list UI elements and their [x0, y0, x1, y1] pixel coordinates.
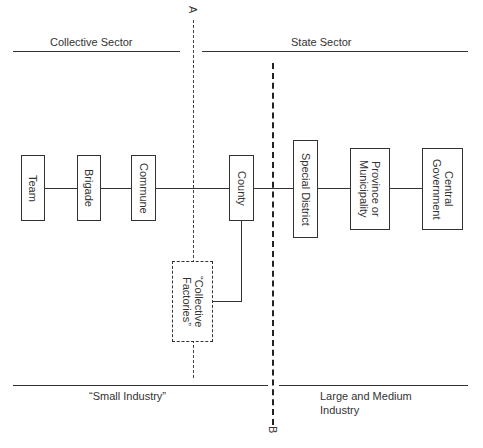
- state-sector-line: [202, 51, 468, 52]
- node-collective-factories-label: “Collective Factories”: [181, 276, 205, 327]
- large-industry-label-1: Large and Medium: [320, 390, 412, 402]
- node-special-district: Special District: [293, 140, 318, 238]
- county-factories-connector-v: [241, 220, 242, 301]
- node-special-district-label: Special District: [300, 153, 312, 226]
- node-commune: Commune: [131, 155, 156, 221]
- small-industry-label: “Small Industry”: [89, 390, 166, 402]
- collective-sector-label: Collective Sector: [50, 36, 133, 48]
- county-factories-connector-h: [212, 301, 242, 302]
- node-county: County: [229, 155, 254, 221]
- node-commune-label: Commune: [138, 163, 150, 214]
- collective-sector-line: [13, 51, 180, 52]
- node-brigade: Brigade: [77, 155, 101, 221]
- node-central-government-label: Central Government: [431, 159, 455, 220]
- state-sector-label: State Sector: [291, 36, 352, 48]
- large-industry-label-2: Industry: [320, 404, 359, 416]
- divider-a-label: A: [187, 6, 199, 13]
- node-team: Team: [21, 155, 45, 221]
- divider-b-line: [272, 63, 274, 425]
- node-collective-factories: “Collective Factories”: [172, 261, 213, 342]
- node-county-label: County: [236, 171, 248, 206]
- node-brigade-label: Brigade: [83, 169, 95, 207]
- node-province: Province or Municipality: [350, 148, 390, 230]
- small-industry-line: [13, 385, 268, 386]
- divider-b-label: B: [267, 426, 279, 433]
- node-province-label: Province or Municipality: [358, 160, 382, 217]
- diagram-canvas: Collective Sector State Sector A B Team …: [0, 0, 483, 448]
- node-central-government: Central Government: [422, 148, 463, 230]
- large-industry-line: [279, 385, 468, 386]
- node-team-label: Team: [27, 175, 39, 202]
